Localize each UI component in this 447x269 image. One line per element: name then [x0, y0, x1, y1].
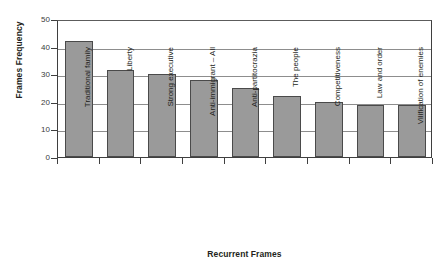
x-category-label: Competitiveness	[332, 47, 344, 167]
x-tick-mark	[99, 158, 100, 164]
y-tick-label: 0	[28, 154, 50, 162]
x-tick-mark	[307, 158, 308, 164]
x-tick-mark	[390, 158, 391, 164]
x-tick-mark	[182, 158, 183, 164]
y-tick-label: 40	[28, 44, 50, 52]
x-tick-mark	[432, 158, 433, 164]
y-axis-title: Frames Frequency	[11, 0, 27, 120]
x-tick-mark	[57, 158, 58, 164]
x-tick-mark	[140, 158, 141, 164]
x-category-label: Vilification of enemies	[415, 47, 427, 167]
x-tick-mark	[224, 158, 225, 164]
x-category-label: Traditional family	[82, 47, 94, 167]
y-tick-label: 20	[28, 99, 50, 107]
y-tick-label: 30	[28, 71, 50, 79]
y-tick-label: 10	[28, 126, 50, 134]
x-category-label: The people	[290, 47, 302, 167]
x-category-label: Strong executive	[165, 47, 177, 167]
x-category-label: Anti-immigrant – All	[207, 47, 219, 167]
x-axis-title: Recurrent Frames	[57, 249, 432, 259]
x-category-label: Liberty	[124, 47, 136, 167]
x-category-label: Law and order	[374, 47, 386, 167]
bar-chart-figure: Frames Frequency 01020304050 Traditional…	[0, 0, 447, 269]
y-tick-label: 50	[28, 16, 50, 24]
x-tick-mark	[349, 158, 350, 164]
x-tick-mark	[265, 158, 266, 164]
x-category-label: Anti-partitocrazia	[249, 47, 261, 167]
